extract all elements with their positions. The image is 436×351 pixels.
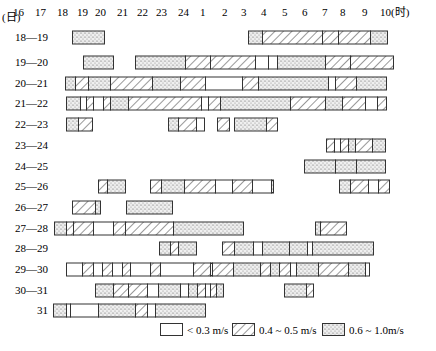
- legend-swatch-low: [161, 324, 183, 336]
- segment-mid: [151, 180, 162, 193]
- x-tick-label: 2: [222, 6, 228, 18]
- segment-mid: [233, 180, 253, 193]
- row-date-label: 29—30: [15, 263, 49, 275]
- segment-high: [371, 31, 388, 44]
- row-date-label: 28—29: [15, 242, 49, 254]
- x-tick-label: 5: [282, 6, 288, 18]
- segment-mid: [378, 97, 387, 110]
- segment-high: [179, 242, 197, 255]
- segment-mid: [76, 77, 89, 90]
- segment-mid: [213, 263, 234, 276]
- segment-high: [285, 284, 307, 297]
- segment-high: [357, 77, 387, 90]
- segment-mid: [339, 31, 371, 44]
- segment-low: [366, 97, 378, 110]
- chart-row: 29—30: [15, 263, 370, 276]
- segment-high: [111, 97, 129, 110]
- segment-high: [54, 304, 67, 317]
- segment-low: [113, 263, 123, 276]
- x-tick-label: 6: [302, 6, 308, 18]
- segment-high: [278, 56, 326, 69]
- segment-mid: [111, 77, 153, 90]
- x-tick-label: 20: [95, 6, 107, 18]
- segment-high: [89, 77, 111, 90]
- segment-low: [161, 263, 194, 276]
- segment-low: [206, 77, 243, 90]
- segment-mid: [198, 284, 206, 297]
- segment-low: [369, 180, 379, 193]
- segment-high: [67, 97, 81, 110]
- segment-mid: [114, 222, 126, 235]
- segment-high: [316, 222, 321, 235]
- segment-low: [269, 56, 278, 69]
- segment-low: [329, 77, 336, 90]
- segment-high: [189, 284, 198, 297]
- row-date-label: 19—20: [15, 56, 49, 68]
- wind-speed-timeline-chart: (日)16171819202122232412345678910(时) 18—1…: [0, 0, 436, 351]
- segment-mid: [126, 222, 174, 235]
- segment-mid: [351, 56, 394, 69]
- segment-mid: [209, 97, 221, 110]
- segment-mid: [280, 263, 291, 276]
- segment-low: [254, 242, 263, 255]
- chart-row: 31: [37, 304, 206, 317]
- segment-mid: [136, 304, 148, 317]
- chart-row: 30—31: [15, 284, 314, 297]
- segment-high: [297, 263, 319, 276]
- segment-mid: [114, 284, 129, 297]
- segment-low: [308, 242, 313, 255]
- segment-high: [259, 77, 329, 90]
- segment-high: [263, 242, 290, 255]
- segment-mid: [74, 222, 94, 235]
- row-date-label: 23—24: [15, 139, 49, 151]
- segment-mid: [211, 284, 217, 297]
- segment-high: [55, 222, 67, 235]
- segment-mid: [123, 263, 131, 276]
- segment-mid: [327, 139, 335, 152]
- segment-mid: [194, 263, 211, 276]
- chart-row: 18—19: [15, 31, 388, 44]
- segment-low: [94, 222, 114, 235]
- x-tick-label: 23: [156, 6, 168, 18]
- segment-high: [305, 160, 336, 173]
- row-date-label: 27—28: [15, 222, 49, 234]
- segment-high: [108, 180, 126, 193]
- segment-low: [71, 304, 99, 317]
- segment-mid: [185, 180, 216, 193]
- segment-high: [349, 263, 366, 276]
- segment-high: [221, 97, 291, 110]
- segment-mid: [179, 118, 197, 131]
- row-date-label: 30—31: [15, 284, 48, 296]
- segment-high: [326, 97, 343, 110]
- row-date-label: 18—19: [15, 31, 49, 43]
- chart-row: 28—29: [15, 242, 374, 255]
- segment-high: [336, 160, 357, 173]
- segment-mid: [343, 97, 366, 110]
- segment-mid: [379, 180, 390, 193]
- segment-mid: [336, 77, 357, 90]
- segment-mid: [323, 31, 339, 44]
- x-tick-label: 4: [261, 6, 267, 18]
- segment-mid: [129, 284, 148, 297]
- segment-mid: [181, 77, 206, 90]
- segment-mid: [351, 180, 369, 193]
- segment-high: [84, 56, 114, 69]
- row-date-label: 25—26: [15, 180, 49, 192]
- segment-low: [202, 97, 209, 110]
- x-tick-label: 8: [340, 6, 346, 18]
- segment-mid: [129, 97, 202, 110]
- legend: < 0.3 m/s0.4 ~ 0.5 m/s0.6 ~ 1.0m/s: [161, 324, 404, 337]
- segment-mid: [151, 263, 161, 276]
- segment-high: [272, 180, 274, 193]
- segment-high: [313, 242, 374, 255]
- x-tick-label: 18: [57, 6, 69, 18]
- x-tick-label: 1: [200, 6, 206, 18]
- segment-mid: [291, 97, 326, 110]
- segment-mid: [87, 97, 94, 110]
- segment-mid: [341, 139, 349, 152]
- chart-row: 22—23: [15, 118, 278, 131]
- chart-row: 21—22: [15, 97, 387, 110]
- segment-low: [335, 139, 341, 152]
- x-axis-header: (日)16171819202122232412345678910(时): [2, 6, 410, 24]
- legend-swatch-high: [323, 324, 345, 336]
